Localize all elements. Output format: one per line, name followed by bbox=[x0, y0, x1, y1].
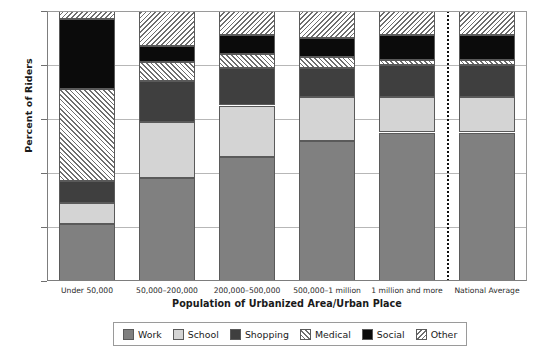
bar-6[interactable] bbox=[459, 11, 515, 281]
bar-segment-medical[interactable] bbox=[459, 60, 515, 65]
bar-segment-other[interactable] bbox=[379, 11, 435, 35]
legend-label: Other bbox=[431, 329, 458, 340]
bar-segment-work[interactable] bbox=[139, 178, 195, 281]
bar-segment-other[interactable] bbox=[59, 11, 115, 19]
legend-swatch-school-icon bbox=[173, 329, 184, 340]
legend-label: Work bbox=[138, 329, 162, 340]
x-axis-tick-label: National Average bbox=[454, 286, 519, 295]
bar-segment-social[interactable] bbox=[379, 35, 435, 59]
bar-segment-social[interactable] bbox=[459, 35, 515, 59]
bar-segment-social[interactable] bbox=[219, 35, 275, 54]
bar-segment-school[interactable] bbox=[219, 106, 275, 157]
legend-item-other[interactable]: Other bbox=[416, 329, 458, 340]
plot-area bbox=[47, 11, 527, 281]
bar-1[interactable] bbox=[59, 11, 115, 281]
bar-segment-social[interactable] bbox=[139, 46, 195, 62]
x-axis-tick-label: 1 million and more bbox=[371, 286, 442, 295]
bar-segment-shopping[interactable] bbox=[219, 68, 275, 106]
x-axis-title: Population of Urbanized Area/Urban Place bbox=[47, 298, 527, 309]
legend-swatch-work-icon bbox=[123, 329, 134, 340]
bar-segment-work[interactable] bbox=[219, 157, 275, 281]
bar-group bbox=[47, 11, 527, 281]
bar-segment-school[interactable] bbox=[379, 97, 435, 132]
bar-segment-social[interactable] bbox=[59, 19, 115, 89]
bar-segment-work[interactable] bbox=[379, 133, 435, 282]
bar-segment-social[interactable] bbox=[299, 38, 355, 57]
bar-segment-shopping[interactable] bbox=[139, 81, 195, 122]
bar-segment-medical[interactable] bbox=[139, 62, 195, 81]
legend-label: School bbox=[188, 329, 219, 340]
legend-item-school[interactable]: School bbox=[173, 329, 219, 340]
bar-segment-school[interactable] bbox=[59, 203, 115, 225]
y-axis-tick bbox=[41, 281, 47, 282]
bar-segment-medical[interactable] bbox=[379, 60, 435, 65]
bar-segment-shopping[interactable] bbox=[299, 68, 355, 98]
bar-4[interactable] bbox=[299, 11, 355, 281]
legend-swatch-medical-icon bbox=[300, 329, 311, 340]
bar-3[interactable] bbox=[219, 11, 275, 281]
legend-label: Shopping bbox=[245, 329, 289, 340]
bar-2[interactable] bbox=[139, 11, 195, 281]
bar-segment-other[interactable] bbox=[219, 11, 275, 35]
legend-item-social[interactable]: Social bbox=[362, 329, 405, 340]
legend-item-medical[interactable]: Medical bbox=[300, 329, 351, 340]
x-axis-tick-label: 500,000–1 million bbox=[293, 286, 361, 295]
bar-segment-work[interactable] bbox=[59, 224, 115, 281]
bar-segment-shopping[interactable] bbox=[59, 181, 115, 203]
legend-label: Social bbox=[377, 329, 405, 340]
national-average-divider bbox=[447, 11, 449, 281]
bar-segment-shopping[interactable] bbox=[379, 65, 435, 97]
x-axis-tick-label: 50,000–200,000 bbox=[136, 286, 198, 295]
bar-segment-school[interactable] bbox=[299, 97, 355, 140]
bar-segment-other[interactable] bbox=[459, 11, 515, 35]
bar-segment-medical[interactable] bbox=[299, 57, 355, 68]
bar-segment-work[interactable] bbox=[459, 133, 515, 282]
bar-5[interactable] bbox=[379, 11, 435, 281]
bar-segment-shopping[interactable] bbox=[459, 65, 515, 97]
bar-segment-school[interactable] bbox=[139, 122, 195, 179]
legend-label: Medical bbox=[315, 329, 351, 340]
bar-segment-work[interactable] bbox=[299, 141, 355, 281]
bar-segment-medical[interactable] bbox=[59, 89, 115, 181]
bar-segment-medical[interactable] bbox=[219, 54, 275, 68]
x-axis-tick-label: Under 50,000 bbox=[61, 286, 113, 295]
bar-segment-school[interactable] bbox=[459, 97, 515, 132]
legend-item-work[interactable]: Work bbox=[123, 329, 162, 340]
chart-figure: Percent of Riders 0%20%40%60%80%100% Und… bbox=[0, 0, 544, 353]
legend-swatch-shopping-icon bbox=[230, 329, 241, 340]
chart-legend: WorkSchoolShoppingMedicalSocialOther bbox=[113, 322, 467, 346]
legend-swatch-social-icon bbox=[362, 329, 373, 340]
legend-swatch-other-icon bbox=[416, 329, 427, 340]
legend-item-shopping[interactable]: Shopping bbox=[230, 329, 289, 340]
y-axis-title: Percent of Riders bbox=[23, 26, 34, 186]
bar-segment-other[interactable] bbox=[299, 11, 355, 38]
bar-segment-other[interactable] bbox=[139, 11, 195, 46]
x-axis-tick-label: 200,000–500,000 bbox=[214, 286, 281, 295]
